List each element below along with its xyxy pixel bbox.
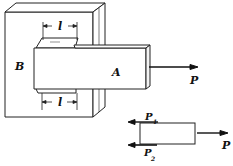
diagram: l l B A P P 1 P 2 P bbox=[0, 0, 233, 166]
label-p1: P bbox=[144, 111, 153, 122]
force-arrow-fbd-p bbox=[197, 131, 228, 136]
length-label-top: l bbox=[58, 20, 62, 33]
bar-a bbox=[34, 45, 150, 89]
free-body-diagram bbox=[140, 123, 195, 144]
label-a: A bbox=[111, 66, 121, 79]
upper-joint bbox=[36, 38, 78, 48]
length-label-bottom: l bbox=[58, 96, 62, 109]
label-fbd-p: P bbox=[221, 139, 231, 152]
force-arrow-p bbox=[149, 65, 198, 70]
label-p2-sub: 2 bbox=[150, 155, 155, 162]
label-p1-sub: 1 bbox=[153, 118, 157, 125]
label-p: P bbox=[189, 74, 199, 87]
label-b: B bbox=[14, 60, 24, 73]
